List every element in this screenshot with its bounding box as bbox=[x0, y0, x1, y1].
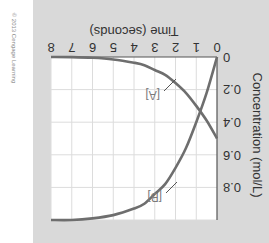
y-axis-title: Concentration (mol/L) bbox=[250, 73, 265, 198]
x-tick-label: 6 bbox=[89, 40, 96, 55]
copyright-credit: © 2013 Cengage Learning bbox=[11, 13, 17, 83]
x-axis-title: Time (seconds) bbox=[89, 24, 178, 39]
y-tick-label: 0.4 bbox=[223, 115, 241, 130]
x-tick-label: 2 bbox=[172, 40, 179, 55]
x-tick-label: 1 bbox=[193, 40, 200, 55]
y-tick-label: 0.8 bbox=[223, 180, 241, 195]
series-b-label: [B] bbox=[147, 190, 162, 204]
chart-stage: [A] [B] 0 1 2 3 4 5 6 7 8 0 0.2 0.4 0.6 … bbox=[0, 0, 269, 243]
series-a-label: [A] bbox=[145, 88, 160, 102]
x-tick-label: 3 bbox=[151, 40, 158, 55]
y-tick-label: 0.2 bbox=[223, 82, 241, 97]
x-tick-label: 8 bbox=[47, 40, 54, 55]
y-tick-label: 0 bbox=[223, 50, 230, 65]
x-tick-label: 0 bbox=[213, 40, 220, 55]
x-tick-label: 7 bbox=[68, 40, 75, 55]
y-tick-label: 0.6 bbox=[223, 148, 241, 163]
x-tick-label: 5 bbox=[110, 40, 117, 55]
x-tick-labels: 0 1 2 3 4 5 6 7 8 bbox=[47, 40, 220, 55]
x-tick-label: 4 bbox=[130, 40, 137, 55]
concentration-time-chart: [A] [B] 0 1 2 3 4 5 6 7 8 0 0.2 0.4 0.6 … bbox=[0, 0, 269, 243]
